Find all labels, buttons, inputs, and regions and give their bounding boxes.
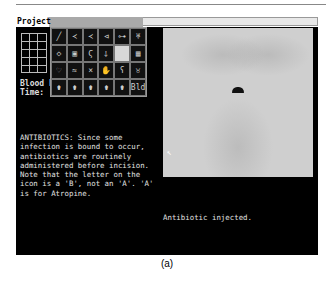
needle-icon[interactable]: × (83, 62, 99, 79)
status-message: Antibiotic injected. (163, 213, 252, 222)
drug-b-icon[interactable]: ⚱ (67, 79, 83, 96)
tool-palette: ╱≺≺⊲⊶♅◇▣Ϛ⸸▦♡≈×✋ʕ♉⚱⚱⚱⚱⚱Bld (50, 27, 147, 97)
drug-d-icon[interactable]: ⚱ (98, 79, 114, 96)
info-text: ANTIBIOTICS: Since some infection is bou… (20, 133, 160, 198)
hook-icon[interactable]: ʕ (114, 62, 130, 79)
menu-bar-highlight (49, 17, 143, 27)
blood-pressure-label: Blood P (20, 79, 54, 88)
page-rule (16, 4, 326, 5)
hand-icon[interactable]: ✋ (98, 62, 114, 79)
drug-a-icon[interactable]: ⚱ (51, 79, 67, 96)
forceps-icon[interactable]: ≺ (67, 28, 83, 45)
retractor-icon[interactable]: ⊲ (98, 28, 114, 45)
bone-icon[interactable]: ⊶ (114, 28, 130, 45)
empty-slot-icon[interactable] (114, 45, 130, 62)
tube-icon[interactable]: ≈ (67, 62, 83, 79)
time-label: Time: (20, 88, 44, 97)
grid-icon[interactable]: ▦ (130, 45, 146, 62)
clamp-icon[interactable]: ≺ (83, 28, 99, 45)
organ-icon[interactable]: ♉ (130, 62, 146, 79)
syringe-icon[interactable]: ⸸ (98, 45, 114, 62)
mouse-pointer-icon: ↖ (167, 148, 172, 157)
scissors-icon[interactable]: ♅ (130, 28, 146, 45)
drug-e-icon[interactable]: ⚱ (114, 79, 130, 96)
menu-project[interactable]: Project (16, 17, 49, 27)
vitals-chart (21, 33, 47, 73)
gauze-icon[interactable]: ▣ (67, 45, 83, 62)
drug-c-icon[interactable]: ⚱ (83, 79, 99, 96)
incision-mark (232, 87, 244, 93)
sponge-icon[interactable]: ◇ (51, 45, 67, 62)
blood-icon[interactable]: Bld (130, 79, 146, 96)
figure-caption: (a) (0, 258, 334, 269)
suture-icon[interactable]: Ϛ (83, 45, 99, 62)
heart-icon[interactable]: ♡ (51, 62, 67, 79)
scalpel-icon[interactable]: ╱ (51, 28, 67, 45)
surgical-view[interactable]: ↖ (163, 28, 313, 177)
